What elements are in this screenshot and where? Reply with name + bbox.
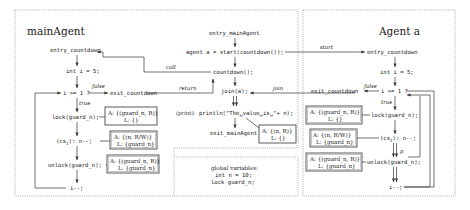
join-label: join (272, 85, 284, 92)
main-entry-node: entry_countdown (50, 47, 101, 54)
agent-cs-node: (cs2): n--; (380, 135, 416, 143)
connector (246, 118, 259, 128)
globals-title: global variables: (211, 165, 258, 172)
agent-flow-diagram: mainAgent entry_countdown int i = 5; i >… (0, 0, 470, 210)
access-set: A: {(n, R/W)} (312, 132, 351, 138)
call-edge (97, 52, 211, 72)
global-var-n: int n = 10; (215, 172, 252, 178)
main-lock-node: lock(guard_n); (52, 114, 99, 121)
global-var-guard: lock guard_n; (211, 179, 255, 186)
access-set: A: {(guard_n, R)} (109, 158, 160, 165)
access-set: A: {(guard_n, R)} (107, 110, 158, 117)
call-node: countdown(); (213, 69, 253, 75)
access-set: A: {(guard_n, R)} (309, 109, 360, 116)
agent-a-title: Agent a (378, 25, 420, 37)
main-exit-node: exit_countdown (110, 90, 157, 97)
print-label: (print): (176, 110, 196, 117)
access-set: A: {(n, R/W)} (113, 134, 152, 140)
agent-false-label: false (363, 83, 377, 90)
lock-set: L: {guard_n} (117, 141, 155, 148)
agent-unlock-node: unlock(guard_n); (367, 159, 421, 166)
agent-exit-node: exit_countdown (311, 88, 358, 95)
main-true-label: true (79, 100, 90, 106)
agent-entry-node: entry_countdown (367, 49, 418, 56)
main-cond-node: i >= 1 ? (63, 90, 90, 96)
loop-back-edge (404, 95, 430, 187)
center-entry-node: entry_mainAgent (209, 30, 260, 37)
agent-true-label: true (381, 99, 392, 105)
agent-init-node: int i = 5; (380, 69, 414, 75)
start-node: agent a = start(countdown()); (186, 49, 284, 56)
main-agent-title: mainAgent (27, 25, 86, 37)
loop-back-edge-inner (408, 96, 420, 157)
main-cs-node: (cs1): n--; (56, 138, 92, 146)
center-exit-node: exit_mainAgent (210, 130, 257, 137)
main-init-node: int i = 5; (66, 68, 100, 74)
agent-p-label: p (400, 148, 404, 155)
call-label: call (166, 64, 176, 70)
return-label: return (179, 85, 197, 91)
lock-set: L: {guard_n} (318, 163, 356, 170)
lock-set: L: {} (271, 135, 286, 141)
print-node: println("The␣value␣is␣"+ n); (199, 110, 293, 117)
agent-cond-node: i >= 1 ? (381, 88, 408, 94)
access-set: A: {(guard_n, R)} (309, 156, 360, 163)
access-set: A: {(n, R)} (261, 128, 293, 134)
lock-set: L: {guard_n} (316, 139, 354, 146)
agent-lock-node: lock(guard_n); (371, 112, 418, 119)
lock-set: L: {} (124, 117, 139, 123)
main-false-label: false (91, 83, 105, 90)
main-unlock-node: unlock(guard_n); (48, 162, 102, 169)
start-label: start (320, 44, 334, 50)
lock-set: L: {guard_n} (118, 165, 156, 172)
join-node: join(a); (221, 88, 248, 95)
agent-dec-node: i--; (389, 184, 402, 190)
main-dec-node: i--; (70, 185, 83, 191)
lock-set: L: {} (328, 116, 343, 122)
